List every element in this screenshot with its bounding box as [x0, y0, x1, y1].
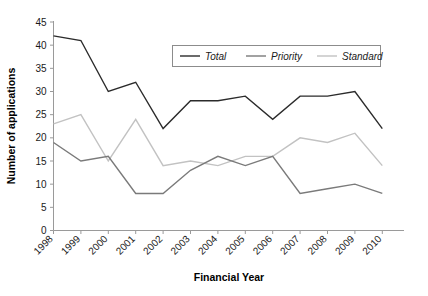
legend-label-priority: Priority — [271, 51, 303, 62]
legend-items: TotalPriorityStandard — [180, 51, 383, 62]
legend-label-total: Total — [205, 51, 227, 62]
chart-canvas: 051015202530354045 199819992000200120022… — [0, 0, 428, 296]
x-tick-label: 2008 — [305, 233, 329, 257]
x-tick-label: 1998 — [31, 233, 55, 257]
y-tick-label: 45 — [35, 17, 47, 28]
y-tick-label: 10 — [35, 179, 47, 190]
x-tick-label: 1999 — [59, 233, 83, 257]
x-tick-label: 2010 — [360, 233, 384, 257]
x-axis-ticks — [54, 231, 383, 235]
x-tick-label: 2002 — [141, 233, 165, 257]
y-axis-ticks — [50, 22, 54, 231]
x-tick-label: 2007 — [278, 233, 302, 257]
y-tick-label: 40 — [35, 40, 47, 51]
x-axis-title: Financial Year — [194, 271, 264, 283]
y-tick-label: 15 — [35, 156, 47, 167]
series-line-priority — [54, 142, 383, 193]
legend-label-standard: Standard — [342, 51, 383, 62]
x-tick-label: 2004 — [196, 233, 220, 257]
x-tick-label: 2003 — [168, 233, 192, 257]
x-tick-label: 2006 — [251, 233, 275, 257]
x-tick-label: 2005 — [223, 233, 247, 257]
y-axis-tick-labels: 051015202530354045 — [35, 17, 47, 237]
y-tick-label: 30 — [35, 86, 47, 97]
y-axis-title: Number of applications — [5, 68, 17, 185]
y-axis: 051015202530354045 — [35, 17, 53, 237]
x-tick-label: 2000 — [86, 233, 110, 257]
chart-legend: TotalPriorityStandard — [173, 46, 384, 67]
x-axis: 1998199920002001200220032004200520062007… — [31, 231, 404, 257]
x-tick-label: 2009 — [333, 233, 357, 257]
y-tick-label: 5 — [41, 202, 47, 213]
line-chart-figure: 051015202530354045 199819992000200120022… — [0, 0, 428, 296]
x-axis-tick-labels: 1998199920002001200220032004200520062007… — [31, 233, 384, 257]
x-tick-label: 2001 — [114, 233, 138, 257]
y-tick-label: 20 — [35, 132, 47, 143]
y-tick-label: 25 — [35, 109, 47, 120]
y-tick-label: 35 — [35, 63, 47, 74]
